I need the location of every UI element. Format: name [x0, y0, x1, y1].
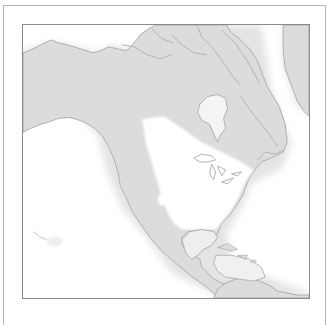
map-frame — [22, 24, 310, 299]
hawaii — [33, 231, 63, 246]
north-america-map — [23, 25, 309, 298]
